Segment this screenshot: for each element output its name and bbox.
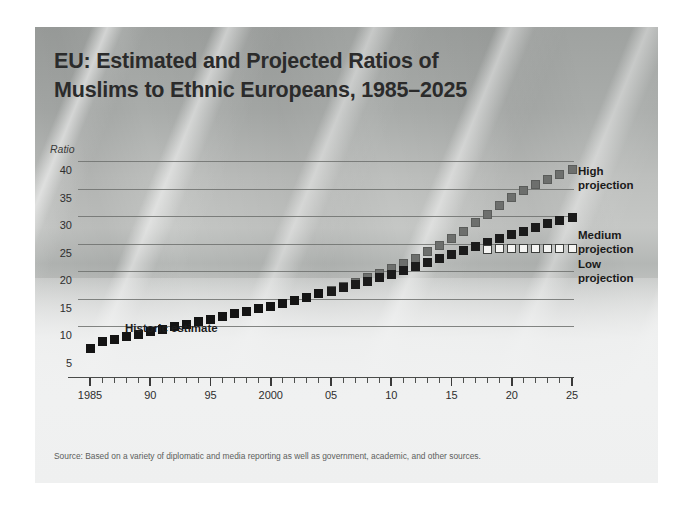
y-axis-tick-label: 40 <box>50 164 72 176</box>
x-axis-minor-tick <box>234 378 235 383</box>
data-point-marker <box>507 244 516 253</box>
x-axis-minor-tick <box>415 378 416 383</box>
x-axis-minor-tick <box>367 378 368 383</box>
y-axis-tick-label: 30 <box>50 219 72 231</box>
gridline <box>78 299 574 300</box>
data-point-marker <box>531 180 540 189</box>
x-axis-minor-tick <box>463 378 464 383</box>
x-axis-major-tick <box>330 378 332 386</box>
source-note: Source: Based on a variety of diplomatic… <box>54 451 481 461</box>
x-axis-minor-tick <box>102 378 103 383</box>
data-point-marker <box>519 244 528 253</box>
x-axis-minor-tick <box>439 378 440 383</box>
x-axis-major-tick <box>149 378 151 386</box>
x-axis-major-tick <box>390 378 392 386</box>
data-point-marker <box>568 244 577 253</box>
x-axis-minor-tick <box>258 378 259 383</box>
x-axis-major-tick <box>89 378 91 386</box>
data-point-marker <box>98 337 107 346</box>
x-axis-tick-label: 15 <box>445 389 457 401</box>
gridline <box>78 271 574 272</box>
y-axis-tick-label: 35 <box>50 192 72 204</box>
x-axis-tick-label: 10 <box>385 389 397 401</box>
data-point-marker <box>471 242 480 251</box>
data-point-marker <box>543 244 552 253</box>
legend-entry-low: Low projection <box>578 258 634 285</box>
legend-label-high: High projection <box>578 165 634 192</box>
x-axis-major-tick <box>451 378 453 386</box>
x-axis-minor-tick <box>294 378 295 383</box>
data-point-marker <box>399 266 408 275</box>
x-axis-tick-label: 95 <box>204 389 216 401</box>
data-point-marker <box>495 201 504 210</box>
data-point-marker <box>86 344 95 353</box>
x-axis-minor-tick <box>174 378 175 383</box>
y-axis-tick-label: 25 <box>50 247 72 259</box>
historic-estimate-annotation: Historic estimate <box>125 322 218 334</box>
data-point-marker <box>387 270 396 279</box>
x-axis-minor-tick <box>355 378 356 383</box>
data-point-marker <box>375 273 384 282</box>
data-point-marker <box>447 250 456 259</box>
data-point-marker <box>314 289 323 298</box>
data-point-marker <box>266 302 275 311</box>
data-point-marker <box>568 165 577 174</box>
data-point-marker <box>568 213 577 222</box>
x-axis-minor-tick <box>198 378 199 383</box>
data-point-marker <box>435 241 444 250</box>
x-axis-minor-tick <box>535 378 536 383</box>
x-axis-tick-label: 20 <box>506 389 518 401</box>
data-point-marker <box>555 216 564 225</box>
data-point-marker <box>423 247 432 256</box>
data-point-marker <box>531 223 540 232</box>
chart-figure: EU: Estimated and Projected Ratios of Mu… <box>35 27 658 483</box>
x-axis-minor-tick <box>318 378 319 383</box>
x-axis-minor-tick <box>138 378 139 383</box>
x-axis-tick-label: 2000 <box>259 389 283 401</box>
data-point-marker <box>339 283 348 292</box>
x-axis-tick-label: 05 <box>325 389 337 401</box>
data-point-marker <box>230 309 239 318</box>
data-point-marker <box>435 254 444 263</box>
x-axis-minor-tick <box>379 378 380 383</box>
x-axis-minor-tick <box>475 378 476 383</box>
plot-area: 510152025303540Ratio19859095200005101520… <box>35 27 658 483</box>
gridline <box>78 216 574 217</box>
legend-entry-medium: Medium projection <box>578 229 634 256</box>
x-axis-minor-tick <box>306 378 307 383</box>
data-point-marker <box>531 244 540 253</box>
x-axis-minor-tick <box>282 378 283 383</box>
data-point-marker <box>254 304 263 313</box>
legend-label-low: Low projection <box>578 258 634 285</box>
data-point-marker <box>555 244 564 253</box>
data-point-marker <box>555 170 564 179</box>
x-axis-minor-tick <box>499 378 500 383</box>
data-point-marker <box>327 287 336 296</box>
x-axis-minor-tick <box>114 378 115 383</box>
x-axis-minor-tick <box>559 378 560 383</box>
data-point-marker <box>519 227 528 236</box>
x-axis-minor-tick <box>547 378 548 383</box>
x-axis-major-tick <box>270 378 272 386</box>
data-point-marker <box>471 218 480 227</box>
y-axis-tick-label: 10 <box>50 329 72 341</box>
data-point-marker <box>507 230 516 239</box>
data-point-marker <box>543 219 552 228</box>
x-axis-minor-tick <box>162 378 163 383</box>
data-point-marker <box>507 193 516 202</box>
x-axis-tick-label: 1985 <box>78 389 102 401</box>
y-axis-title: Ratio <box>50 143 75 155</box>
x-axis-minor-tick <box>222 378 223 383</box>
data-point-marker <box>483 210 492 219</box>
data-point-marker <box>459 227 468 236</box>
x-axis-major-tick <box>210 378 212 386</box>
x-axis-major-tick <box>511 378 513 386</box>
data-point-marker <box>495 234 504 243</box>
gridline <box>78 189 574 190</box>
data-point-marker <box>351 280 360 289</box>
x-axis-minor-tick <box>403 378 404 383</box>
gridline <box>78 354 574 355</box>
x-axis-minor-tick <box>523 378 524 383</box>
data-point-marker <box>495 244 504 253</box>
x-axis-tick-label: 90 <box>144 389 156 401</box>
